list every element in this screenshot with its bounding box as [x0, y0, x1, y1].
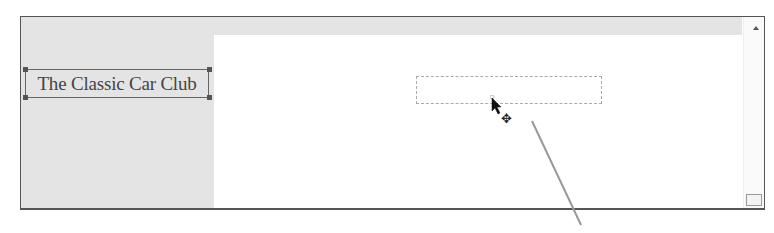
- callout-line: [0, 0, 774, 233]
